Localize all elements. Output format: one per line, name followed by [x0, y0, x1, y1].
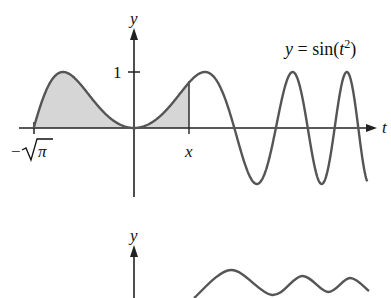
neg-sqrt-pi-label: − π	[11, 139, 53, 161]
x-marker-label: x	[184, 142, 193, 161]
t-axis-arrow-icon	[366, 124, 377, 132]
function-label: y = sin(t2)	[283, 37, 356, 60]
svg-text:π: π	[38, 142, 47, 161]
tick-label-one: 1	[113, 63, 122, 82]
chart-canvas: y 1 t x − π y = sin(t2) y	[0, 0, 391, 298]
y-axis-bottom-arrow-icon	[130, 245, 138, 257]
integral-curve	[194, 270, 369, 298]
y-axis-label-bottom: y	[128, 226, 138, 245]
y-axis-label-top: y	[128, 9, 138, 28]
t-axis-label: t	[382, 118, 388, 137]
y-axis-top-arrow-icon	[130, 28, 138, 40]
svg-text:−: −	[11, 142, 21, 161]
